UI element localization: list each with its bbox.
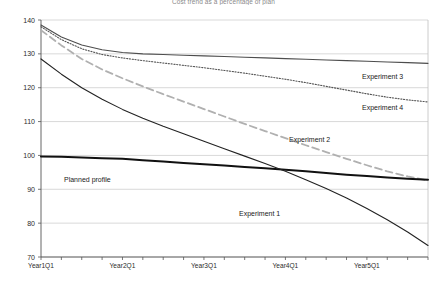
series-label: Experiment 2 [289,136,330,143]
data-series [41,25,428,245]
x-tick-marks [41,257,428,260]
chart-container: Cost trend as a percentage of plan 70809… [0,0,447,292]
axis-lines [41,20,428,257]
y-axis-tick-label: 100 [9,152,35,159]
y-axis-tick-label: 120 [9,84,35,91]
x-axis-tick-label: Year4Q1 [255,263,315,270]
series-label: Planned profile [64,176,111,183]
series-line [41,59,428,246]
x-axis-tick-label: Year2Q1 [92,263,152,270]
series-line [41,25,428,63]
x-axis-tick-label: Year5Q1 [337,263,397,270]
chart-plot-area [0,0,447,292]
y-axis-tick-label: 80 [9,220,35,227]
y-axis-tick-label: 110 [9,118,35,125]
y-axis-tick-label: 70 [9,254,35,261]
series-line [41,27,428,102]
series-label: Experiment 4 [362,104,403,111]
y-axis-tick-label: 90 [9,186,35,193]
series-label: Experiment 1 [239,210,280,217]
x-axis-tick-label: Year1Q1 [11,263,71,270]
y-axis-tick-label: 130 [9,50,35,57]
x-axis-tick-label: Year3Q1 [174,263,234,270]
series-label: Experiment 3 [362,73,403,80]
y-axis-tick-label: 140 [9,17,35,24]
gridlines [41,20,428,257]
